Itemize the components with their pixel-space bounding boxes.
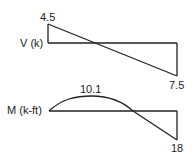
shear-diagram — [48, 24, 177, 76]
moment-positive-curve — [49, 96, 133, 111]
moment-max-negative-label: 18 — [171, 143, 183, 154]
moment-diagram — [49, 96, 177, 140]
diagram-canvas — [0, 0, 196, 158]
moment-axis-label: M (k-ft) — [7, 105, 42, 116]
shear-axis-label: V (k) — [20, 38, 43, 49]
moment-max-positive-label: 10.1 — [80, 84, 101, 95]
shear-max-positive-label: 4.5 — [40, 12, 55, 23]
shear-diagonal — [48, 24, 177, 76]
shear-max-negative-label: 7.5 — [169, 80, 184, 91]
moment-negative-diagonal — [133, 111, 177, 140]
